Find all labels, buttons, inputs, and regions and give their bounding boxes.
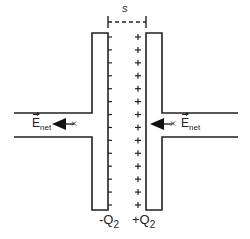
plus-sign: [135, 124, 141, 130]
plus-sign: [135, 73, 141, 79]
separation-label: s: [122, 2, 128, 14]
right-field-label: Enet: [181, 116, 200, 132]
plus-sign: [135, 202, 141, 208]
right-plate-charge-label: +Q2: [132, 212, 155, 230]
plus-sign: [135, 86, 141, 92]
plus-sign: [135, 47, 141, 53]
plus-sign: [135, 189, 141, 195]
plus-sign: [135, 163, 141, 169]
plus-sign: [135, 99, 141, 105]
plus-sign: [135, 60, 141, 66]
plus-sign: [135, 137, 141, 143]
right-charge-subscript: 2: [150, 219, 156, 230]
left-field-arrow: [52, 118, 76, 130]
positive-charges: [135, 34, 141, 208]
left-charge-text: -Q: [99, 212, 113, 227]
left-plate-charge-label: -Q2: [99, 212, 119, 230]
plus-sign: [135, 176, 141, 182]
plus-sign: [135, 112, 141, 118]
left-field-symbol: E: [32, 116, 40, 130]
separation-marker: [108, 16, 146, 28]
plus-sign: [135, 150, 141, 156]
left-field-label: Enet: [32, 116, 51, 132]
right-field-arrow: [150, 118, 175, 130]
left-field-subscript: net: [40, 123, 51, 132]
left-charge-subscript: 2: [113, 219, 119, 230]
plus-sign: [135, 34, 141, 40]
right-field-symbol: E: [181, 116, 189, 130]
right-field-subscript: net: [189, 123, 200, 132]
right-charge-text: +Q: [132, 212, 150, 227]
